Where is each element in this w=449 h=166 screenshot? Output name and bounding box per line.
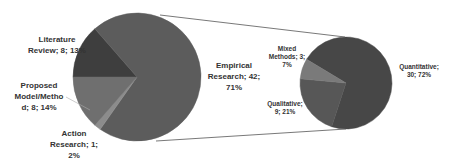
label-line: Research; 1; — [48, 139, 100, 150]
label-line: Action — [48, 128, 100, 139]
label-line: Quantitative; — [391, 63, 447, 71]
label-line: Model/Metho — [8, 91, 70, 102]
label-line: Methods; 3; — [264, 53, 310, 61]
label-line: Literature — [22, 34, 92, 45]
label-line: 2% — [48, 150, 100, 161]
label-mixed-methods: Mixed Methods; 3; 7% — [264, 45, 310, 69]
label-line: Proposed — [8, 80, 70, 91]
label-literature-review: Literature Review; 8; 13% — [22, 34, 92, 56]
label-line: Review; 8; 13% — [22, 45, 92, 56]
label-line: 30; 72% — [391, 71, 447, 79]
connector-line-bottom — [156, 129, 346, 141]
label-line: Research; 42; — [204, 71, 264, 82]
label-quantitative: Quantitative; 30; 72% — [391, 63, 447, 79]
label-empirical-research: Empirical Research; 42; 71% — [204, 60, 264, 93]
label-proposed-model: Proposed Model/Metho d; 8; 14% — [8, 80, 70, 113]
label-line: 9; 21% — [262, 108, 308, 116]
label-line: Empirical — [204, 60, 264, 71]
label-action-research: Action Research; 1; 2% — [48, 128, 100, 161]
label-line: Qualitative; — [262, 100, 308, 108]
secondary-pie — [300, 37, 392, 129]
label-line: d; 8; 14% — [8, 102, 70, 113]
connector-line-top — [160, 15, 345, 37]
label-line: 71% — [204, 82, 264, 93]
label-qualitative: Qualitative; 9; 21% — [262, 100, 308, 116]
label-line: 7% — [264, 61, 310, 69]
label-line: Mixed — [264, 45, 310, 53]
main-pie — [73, 13, 201, 141]
